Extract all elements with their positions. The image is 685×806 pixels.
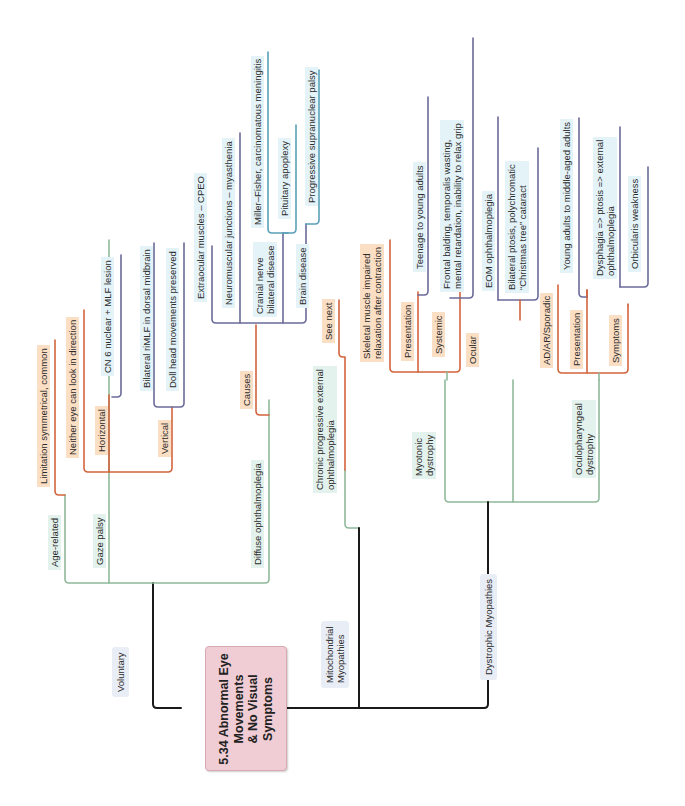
node-oculopharyngeal-dystrophy[interactable]: Oculopharyngeal dystrophy bbox=[572, 400, 596, 478]
branch-voluntary[interactable]: Voluntary bbox=[112, 647, 129, 697]
node-cpeo[interactable]: Chronic progressive external ophthalmopl… bbox=[313, 366, 337, 493]
mind-map-canvas: 5.34 Abnormal Eye Movements & No Visual … bbox=[0, 0, 685, 806]
node-neuromuscular-junctions: Neuromuscular junctions – myasthenia bbox=[222, 138, 235, 308]
node-cranial-nerve[interactable]: Cranial nerve bilateral disease bbox=[253, 242, 277, 317]
node-cn6-mlf-lesion: CN 6 nuclear + MLF lesion bbox=[101, 257, 114, 376]
node-dysphagia-ptosis: Dysphagia => ptosis => external ophthalm… bbox=[593, 137, 617, 279]
node-myotonic-dystrophy[interactable]: Myotonic dystrophy bbox=[412, 432, 436, 479]
node-myotonic-presentation[interactable]: Presentation bbox=[401, 302, 414, 361]
node-bilateral-ptosis-cataract: Bilateral ptosis, polychromatic “Christm… bbox=[505, 161, 529, 293]
node-diffuse-ophthalmoplegia[interactable]: Diffuse ophthalmoplegia bbox=[251, 460, 264, 568]
node-oculopharyngeal-presentation[interactable]: Presentation bbox=[570, 310, 583, 369]
node-frontal-balding: Frontal balding, temporalis wasting, men… bbox=[440, 120, 464, 292]
node-teenage-young-adults: Teenage to young adults bbox=[413, 162, 426, 272]
node-brain-disease[interactable]: Brain disease bbox=[296, 244, 309, 308]
node-bilateral-rimlf: Bilateral riMLF in dorsal midbrain bbox=[140, 246, 153, 391]
node-age-related[interactable]: Age-related bbox=[48, 515, 61, 570]
node-systemic[interactable]: Systemic bbox=[432, 312, 445, 357]
node-neither-eye: Neither eye can look in direction bbox=[66, 317, 79, 458]
node-miller-fisher: Miller–Fisher, carcinomatous meningitis bbox=[251, 56, 264, 228]
root-title: 5.34 Abnormal Eye Movements & No Visual … bbox=[217, 653, 275, 764]
node-causes[interactable]: Causes bbox=[240, 371, 253, 409]
node-skeletal-muscle-impaired: Skeletal muscle impaired relaxation afte… bbox=[360, 244, 384, 362]
node-limitation-symmetrical: Limitation symmetrical, common bbox=[37, 345, 50, 487]
branch-mitochondrial-myopathies[interactable]: Mitochondrial Myopathies bbox=[321, 622, 349, 689]
node-ocular[interactable]: Ocular bbox=[466, 333, 479, 367]
node-young-to-middle-aged: Young adults to middle-aged adults bbox=[560, 119, 573, 273]
node-doll-head: Doll head movements preserved bbox=[166, 248, 179, 391]
node-symptoms[interactable]: Symptoms bbox=[609, 315, 622, 366]
node-ad-ar-sporadic: AD/AR/Sporadic bbox=[540, 293, 553, 368]
branch-dystrophic-myopathies[interactable]: Dystrophic Myopathies bbox=[480, 574, 497, 680]
node-orbicularis-weakness: Orbicularis weakness bbox=[628, 176, 641, 272]
node-eom-ophthalmoplegia: EOM ophthalmoplegia bbox=[482, 191, 495, 291]
node-gaze-palsy[interactable]: Gaze palsy bbox=[93, 514, 106, 568]
node-extraocular-muscles: Extraocular muscles – CPEO bbox=[194, 173, 207, 302]
node-vertical[interactable]: Vertical bbox=[158, 420, 171, 457]
node-horizontal[interactable]: Horizontal bbox=[95, 406, 108, 455]
node-progressive-supranuclear-palsy: Progressive supranuclear palsy bbox=[305, 67, 318, 206]
root-node[interactable]: 5.34 Abnormal Eye Movements & No Visual … bbox=[205, 646, 287, 771]
node-pituitary-apoplexy: Pituitary apoplexy bbox=[278, 138, 291, 219]
node-see-next[interactable]: See next bbox=[322, 300, 335, 344]
